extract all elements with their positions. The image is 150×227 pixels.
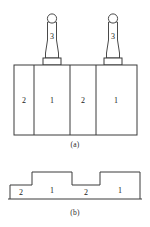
part-b-diagram: 2 1 2 1 — [0, 0, 150, 227]
step-label-2: 1 — [50, 186, 54, 195]
step-label-1: 2 — [19, 188, 23, 197]
caption-part-b: (b) — [0, 208, 150, 217]
step-label-3: 2 — [84, 188, 88, 197]
figure-container: 3 3 2 1 2 1 (a) 2 1 2 1 (b) — [0, 0, 150, 227]
step-label-4: 1 — [118, 186, 122, 195]
